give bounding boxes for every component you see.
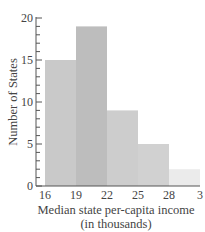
bars [45,26,200,186]
y-tick-label: 15 [21,53,33,67]
x-axis-title-units: (in thousands) [80,217,151,231]
x-tick-labels: 16192225283 [39,188,203,202]
x-tick-label: 3 [197,188,203,202]
y-tick-label: 0 [27,179,33,193]
y-tick-label: 5 [27,137,33,151]
histogram-chart: 05101520 16192225283 Number of States Me… [0,0,205,232]
x-tick-label: 19 [70,188,82,202]
y-ticks: 05101520 [21,11,42,193]
histogram-bar [76,26,107,186]
y-tick-label: 10 [21,95,33,109]
x-axis-title: Median state per-capita income [38,203,195,217]
x-tick-label: 22 [101,188,113,202]
x-tick-label: 28 [163,188,175,202]
histogram-bar [138,144,169,186]
x-tick-label: 25 [132,188,144,202]
histogram-bar [45,60,76,186]
y-tick-label: 20 [21,11,33,25]
histogram-bar [169,169,200,186]
y-axis-title: Number of States [6,58,20,146]
histogram-bar [107,110,138,186]
x-tick-label: 16 [39,188,51,202]
